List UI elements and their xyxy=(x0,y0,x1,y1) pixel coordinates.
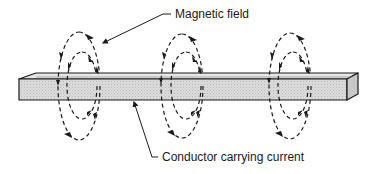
conductor-label: Conductor carrying current xyxy=(162,151,304,163)
arrow-icon xyxy=(167,130,175,136)
bar-top-face xyxy=(19,73,358,79)
conductor-leader xyxy=(134,102,158,157)
magnetic-field-label: Magnetic field xyxy=(175,8,249,20)
arrow-icon xyxy=(275,131,283,137)
arrow-icon xyxy=(64,132,72,138)
magnetic-field-leader xyxy=(103,14,171,43)
diagram: Magnetic field Conductor carrying curren… xyxy=(0,0,369,174)
arrow-icon xyxy=(297,35,305,41)
diagram-canvas xyxy=(0,0,369,174)
arrow-icon xyxy=(189,36,197,42)
arrow-icon xyxy=(86,34,94,40)
